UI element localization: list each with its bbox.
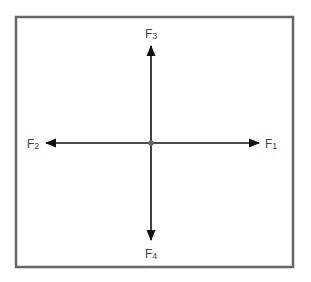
frame-border [16,17,293,267]
label-f3: F3 [145,27,157,41]
label-f2: F2 [27,137,39,151]
origin-point [148,140,154,146]
label-f4: F4 [145,247,157,261]
label-f1: F1 [265,137,277,151]
force-diagram: F1 F2 F3 F4 [0,0,311,282]
